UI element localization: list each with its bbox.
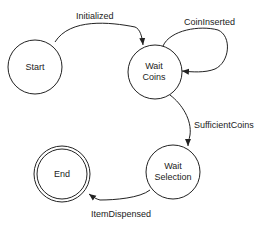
state-wait-coins-label-line1: Wait — [145, 61, 163, 71]
state-wait-selection-label-line2: Selection — [154, 172, 191, 182]
state-wait-selection: Wait Selection — [146, 145, 200, 199]
state-end-label: End — [54, 169, 70, 179]
edge-initialized: Initialized — [55, 11, 143, 45]
state-wait-coins: Wait Coins — [128, 45, 182, 99]
edge-sufficient-coins: SufficientCoins — [170, 95, 254, 146]
edge-item-dispensed: ItemDispensed — [89, 190, 151, 219]
edge-coin-inserted-label: CoinInserted — [184, 17, 235, 27]
edge-sufficient-coins-path — [170, 95, 190, 146]
edge-item-dispensed-path — [89, 190, 150, 200]
state-wait-coins-label-line2: Coins — [142, 72, 166, 82]
state-start-label: Start — [25, 62, 45, 72]
state-start: Start — [8, 40, 62, 94]
edge-initialized-path — [55, 23, 143, 45]
diagram-svg: Initialized CoinInserted SufficientCoins… — [0, 0, 259, 226]
state-end: End — [34, 146, 90, 202]
edge-sufficient-coins-label: SufficientCoins — [194, 120, 254, 130]
state-diagram: Initialized CoinInserted SufficientCoins… — [0, 0, 259, 226]
state-wait-selection-label-line1: Wait — [164, 161, 182, 171]
edge-initialized-label: Initialized — [76, 11, 114, 21]
edge-item-dispensed-label: ItemDispensed — [91, 209, 151, 219]
